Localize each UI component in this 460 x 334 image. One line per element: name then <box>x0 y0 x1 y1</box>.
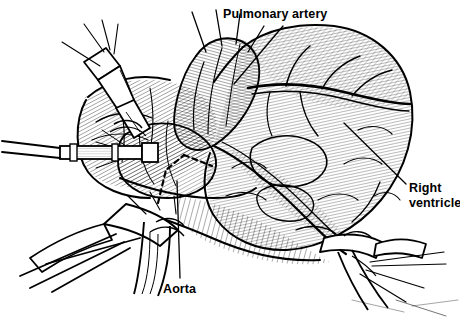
label-right-ventricle-line-1: Right <box>409 181 460 196</box>
label-right-ventricle-line-2: ventricle <box>409 196 460 211</box>
label-pulmonary-artery: Pulmonary artery <box>223 7 327 22</box>
label-right-ventricle: Right ventricle <box>409 181 460 210</box>
label-pulmonary-artery-text: Pulmonary artery <box>223 7 327 21</box>
label-aorta: Aorta <box>163 282 196 297</box>
label-aorta-text: Aorta <box>163 282 196 296</box>
heart-illustration <box>0 0 460 334</box>
figure-container: Pulmonary artery Right ventricle Aorta <box>0 0 460 334</box>
